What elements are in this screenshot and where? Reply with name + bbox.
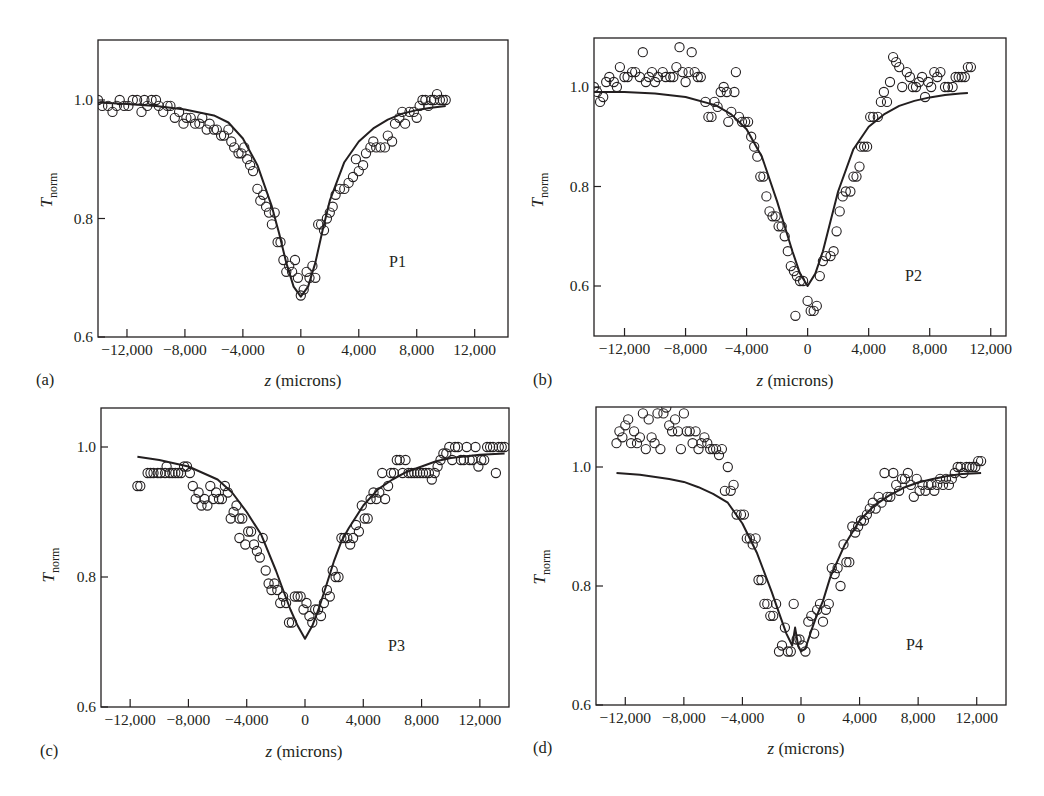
- y-tick-label: 0.6: [77, 698, 97, 715]
- x-tick-label: −4,000: [725, 340, 769, 357]
- x-tick-label: 0: [804, 340, 812, 357]
- data-point: [659, 409, 668, 418]
- data-point: [930, 486, 939, 495]
- data-point: [675, 43, 684, 52]
- data-point: [824, 599, 833, 608]
- data-point: [471, 442, 480, 451]
- panel-letter: (c): [40, 741, 58, 760]
- x-tick-label: −4,000: [721, 709, 765, 726]
- data-point: [672, 63, 681, 72]
- data-point: [432, 90, 441, 99]
- y-tick-label: 1.0: [77, 438, 97, 455]
- plot-area: −12,000−8,000−4,00004,0008,00012,0000.60…: [572, 403, 1006, 726]
- y-tick-label: 1.0: [572, 458, 592, 475]
- data-point: [703, 439, 712, 448]
- data-point: [855, 162, 864, 171]
- data-point: [246, 161, 255, 170]
- x-tick-label: −8,000: [167, 711, 211, 728]
- data-point: [673, 427, 682, 436]
- x-tick-label: 4,000: [842, 709, 877, 726]
- data-point: [656, 445, 665, 454]
- figure-canvas: −12,000−8,000−4,00004,0008,00012,0000.60…: [0, 0, 1044, 796]
- data-point: [612, 439, 621, 448]
- data-point: [261, 566, 270, 575]
- data-point: [348, 172, 357, 181]
- data-point: [804, 617, 813, 626]
- x-tick-label: 4,000: [341, 341, 376, 358]
- data-point: [412, 113, 421, 122]
- x-tick-label: 8,000: [404, 711, 439, 728]
- data-point: [898, 82, 907, 91]
- data-point: [644, 415, 653, 424]
- data-point: [679, 409, 688, 418]
- x-tick-label: −12,000: [600, 709, 652, 726]
- figure: −12,000−8,000−4,00004,0008,00012,0000.60…: [0, 0, 1044, 796]
- plot-area: −12,000−8,000−4,00004,0008,00012,0000.60…: [74, 40, 508, 358]
- data-point: [882, 97, 891, 106]
- data-point: [885, 77, 894, 86]
- data-point: [302, 267, 311, 276]
- data-point: [714, 451, 723, 460]
- data-point: [241, 540, 250, 549]
- x-tick-label: −8,000: [163, 341, 207, 358]
- data-point: [726, 486, 735, 495]
- y-axis-label: Tnorm: [39, 547, 62, 582]
- data-point: [818, 617, 827, 626]
- data-point: [137, 107, 146, 116]
- data-point: [293, 273, 302, 282]
- data-point: [691, 427, 700, 436]
- plot-series: [133, 442, 509, 638]
- x-tick-label: −8,000: [662, 709, 706, 726]
- data-point: [462, 442, 471, 451]
- data-point: [635, 433, 644, 442]
- data-point: [944, 480, 953, 489]
- x-tick-label: 0: [797, 709, 805, 726]
- plot-series: [612, 403, 986, 656]
- data-point: [909, 492, 918, 501]
- data-point: [248, 167, 257, 176]
- y-tick-label: 0.6: [570, 277, 590, 294]
- data-point: [700, 433, 709, 442]
- x-tick-label: −12,000: [101, 341, 153, 358]
- data-point: [835, 207, 844, 216]
- data-point: [615, 63, 624, 72]
- x-tick-label: 12,000: [453, 341, 496, 358]
- series-label: P2: [905, 267, 922, 284]
- x-tick-label: 8,000: [912, 340, 947, 357]
- x-tick-label: 0: [297, 341, 305, 358]
- data-point: [681, 77, 690, 86]
- panel-letter: (b): [533, 370, 552, 389]
- x-axis-label: z (microns): [264, 371, 342, 390]
- data-point: [378, 468, 387, 477]
- data-point: [729, 480, 738, 489]
- plot-frame: [596, 407, 1006, 705]
- x-tick-label: −4,000: [225, 711, 269, 728]
- data-point: [836, 581, 845, 590]
- y-tick-label: 0.6: [572, 696, 592, 713]
- data-point: [687, 48, 696, 57]
- data-point: [731, 68, 740, 77]
- y-axis-label: Tnorm: [530, 549, 553, 584]
- data-point: [624, 415, 633, 424]
- y-tick-label: 0.8: [77, 568, 97, 585]
- data-point: [724, 117, 733, 126]
- x-tick-label: 12,000: [969, 340, 1012, 357]
- x-tick-label: 12,000: [955, 709, 998, 726]
- fit-curve: [617, 473, 982, 652]
- data-point: [401, 119, 410, 128]
- y-axis-label: Tnorm: [528, 172, 551, 207]
- data-point: [879, 87, 888, 96]
- data-point: [789, 599, 798, 608]
- x-axis-label: z (microns): [767, 739, 845, 758]
- data-point: [638, 409, 647, 418]
- series-label: P3: [388, 637, 405, 654]
- data-point: [630, 427, 639, 436]
- panel-d: −12,000−8,000−4,00004,0008,00012,0000.60…: [530, 403, 1006, 758]
- series-label: P1: [389, 253, 406, 270]
- data-point: [717, 445, 726, 454]
- data-point: [723, 462, 732, 471]
- data-point: [832, 227, 841, 236]
- data-point: [401, 455, 410, 464]
- data-point: [821, 605, 830, 614]
- series-label: P4: [906, 636, 923, 653]
